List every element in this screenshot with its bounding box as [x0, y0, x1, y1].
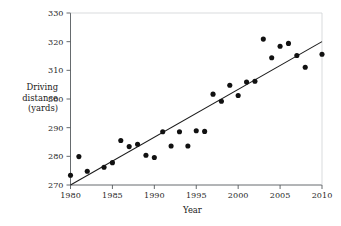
data-point — [278, 44, 283, 49]
data-point — [236, 93, 241, 98]
y-tick-label: 330 — [48, 8, 63, 18]
y-tick-label: 290 — [48, 123, 63, 133]
data-point — [252, 79, 257, 84]
x-tick-label: 1990 — [144, 190, 165, 200]
data-point — [185, 143, 190, 148]
y-axis-title: Driving distance (yards) — [2, 82, 58, 114]
y-axis-title-line-2: distance — [2, 93, 58, 104]
data-point-group — [68, 37, 325, 178]
y-tick-label: 320 — [48, 37, 63, 47]
data-point — [319, 52, 324, 57]
data-point — [169, 143, 174, 148]
data-point — [210, 92, 215, 97]
x-tick-label: 1995 — [186, 190, 207, 200]
x-tick-label: 2005 — [270, 190, 291, 200]
x-tick-label: 1980 — [60, 190, 81, 200]
data-point — [110, 160, 115, 165]
y-axis-title-line-3: (yards) — [2, 103, 58, 114]
y-tick-label: 270 — [48, 180, 63, 190]
data-point — [303, 65, 308, 70]
axis-group — [71, 13, 323, 185]
x-tick-label: 2010 — [312, 190, 333, 200]
data-point — [76, 154, 81, 159]
data-point — [160, 129, 165, 134]
y-axis-title-line-1: Driving — [2, 82, 58, 93]
x-tick-label: 2000 — [228, 190, 249, 200]
data-point — [118, 138, 123, 143]
x-axis-title: Year — [60, 205, 325, 215]
regression-line — [71, 42, 323, 185]
data-point — [68, 173, 73, 178]
data-point — [194, 128, 199, 133]
data-point — [101, 165, 106, 170]
tick-mark-group — [67, 13, 323, 189]
data-point — [85, 169, 90, 174]
y-tick-label: 280 — [48, 151, 63, 161]
y-tick-label: 310 — [48, 65, 63, 75]
data-point — [244, 80, 249, 85]
data-point — [127, 144, 132, 149]
plot-frame-top-right — [71, 13, 323, 185]
x-tick-label: 1985 — [102, 190, 123, 200]
data-point — [261, 37, 266, 42]
data-point — [227, 83, 232, 88]
data-point — [269, 55, 274, 60]
x-tick-label-group: 1980198519901995200020052010 — [60, 190, 332, 200]
data-point — [202, 129, 207, 134]
data-point — [177, 129, 182, 134]
trendline — [71, 42, 323, 185]
data-point — [219, 99, 224, 104]
driving-distance-scatter-figure: 270280290300310320330 198019851990199520… — [0, 0, 341, 226]
data-point — [135, 142, 140, 147]
data-point — [286, 41, 291, 46]
data-point — [143, 153, 148, 158]
data-point — [152, 155, 157, 160]
data-point — [294, 53, 299, 58]
axis-spines — [71, 13, 323, 185]
